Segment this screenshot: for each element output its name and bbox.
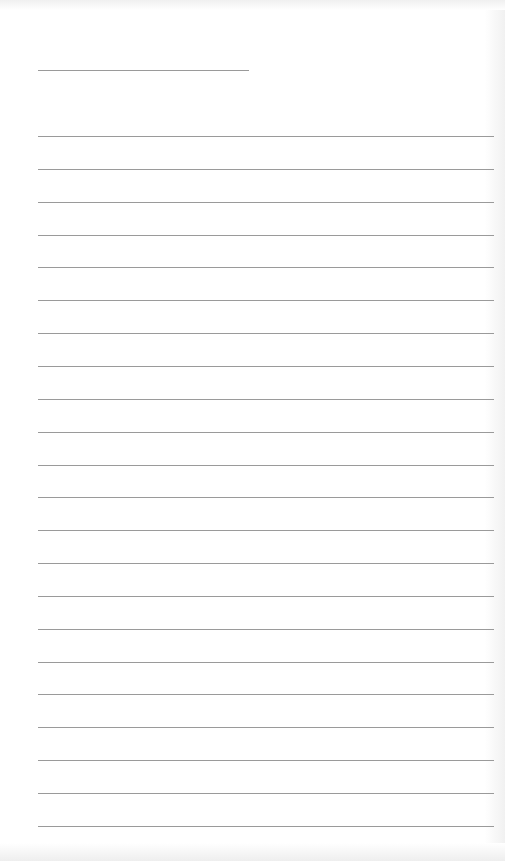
- ruled-line: [38, 136, 494, 137]
- ruled-line: [38, 596, 494, 597]
- ruled-line: [38, 465, 494, 466]
- ruled-line: [38, 267, 494, 268]
- ruled-paper-page: [0, 0, 505, 861]
- ruled-line: [38, 432, 494, 433]
- header-name-line: [38, 70, 249, 71]
- ruled-line: [38, 399, 494, 400]
- ruled-line: [38, 694, 494, 695]
- ruled-line: [38, 662, 494, 663]
- ruled-line: [38, 300, 494, 301]
- ruled-line: [38, 530, 494, 531]
- ruled-line: [38, 235, 494, 236]
- ruled-line: [38, 202, 494, 203]
- ruled-line: [38, 629, 494, 630]
- ruled-line: [38, 793, 494, 794]
- paper-top-shadow: [0, 0, 505, 10]
- ruled-line: [38, 760, 494, 761]
- ruled-line: [38, 563, 494, 564]
- ruled-line: [38, 497, 494, 498]
- ruled-line: [38, 169, 494, 170]
- ruled-line: [38, 727, 494, 728]
- paper-bottom-shadow: [0, 843, 505, 861]
- ruled-line: [38, 826, 494, 827]
- ruled-line: [38, 366, 494, 367]
- ruled-line: [38, 333, 494, 334]
